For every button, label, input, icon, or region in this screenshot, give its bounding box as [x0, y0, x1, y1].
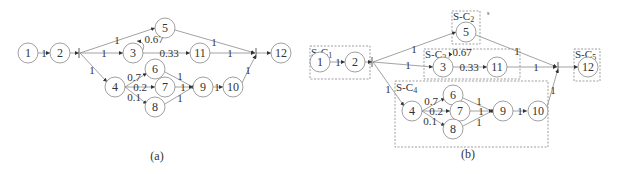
edge-label-9-10: 1 — [214, 81, 220, 93]
node-2: 2 — [50, 43, 70, 63]
svg-text:7: 7 — [162, 80, 168, 94]
svg-text:7: 7 — [457, 104, 463, 118]
svg-text:12: 12 — [275, 46, 287, 60]
diagram-canvas: 1 1 1 1 0.67 0.33 1 1 0.7 0.2 0.1 1 1 1 … — [0, 0, 617, 174]
svg-text:4: 4 — [112, 80, 118, 94]
node-9: 9 — [493, 101, 513, 121]
node-10: 10 — [528, 101, 548, 121]
edge-label-3-11: 0.33 — [459, 61, 479, 73]
svg-text:1: 1 — [317, 55, 323, 69]
svg-text:2: 2 — [57, 46, 63, 60]
edge-label-8-9: 1 — [177, 92, 183, 104]
svg-text:11: 11 — [194, 46, 206, 60]
edge-label-1-2: 1 — [41, 47, 47, 59]
edge-3-5 — [449, 52, 450, 58]
panel-a: 1 1 1 1 0.67 0.33 1 1 0.7 0.2 0.1 1 1 1 … — [18, 18, 291, 163]
node-11: 11 — [487, 57, 507, 77]
node-1: 1 — [18, 43, 38, 63]
edge-label-2-5: 1 — [114, 34, 120, 46]
svg-text:3: 3 — [440, 60, 446, 74]
edge-label-9-10: 1 — [517, 105, 523, 117]
node-12: 12 — [271, 43, 291, 63]
edge-label-2-4: 1 — [385, 83, 391, 95]
edge-label-5-12: 1 — [211, 36, 217, 48]
node-10: 10 — [223, 77, 243, 97]
group-label-sc4: S-C4 — [396, 81, 417, 95]
node-5: 5 — [456, 22, 476, 42]
svg-text:8: 8 — [450, 122, 456, 136]
svg-text:2: 2 — [352, 55, 358, 69]
svg-text:9: 9 — [500, 104, 506, 118]
edge-label-11-12: 1 — [533, 61, 539, 73]
edge-label-10-12: 1 — [245, 64, 251, 76]
svg-text:9: 9 — [200, 80, 206, 94]
caption-a: (a) — [150, 149, 163, 163]
node-6: 6 — [145, 59, 165, 79]
node-3: 3 — [123, 43, 143, 63]
svg-text:10: 10 — [227, 80, 239, 94]
node-3: 3 — [433, 57, 453, 77]
svg-text:10: 10 — [532, 104, 544, 118]
edge-label-2-5: 1 — [411, 43, 417, 55]
node-5: 5 — [155, 18, 175, 38]
node-4: 4 — [105, 77, 125, 97]
node-4: 4 — [402, 101, 422, 121]
svg-text:8: 8 — [152, 100, 158, 114]
edge-label-1-2: 1 — [335, 56, 341, 68]
svg-text:6: 6 — [450, 88, 456, 102]
edge-label-10-12: 1 — [550, 84, 556, 96]
node-12: 12 — [578, 57, 598, 77]
edge-label-4-8: 0.1 — [423, 115, 437, 127]
svg-text:12: 12 — [582, 60, 594, 74]
node-7: 7 — [450, 101, 470, 121]
svg-text:3: 3 — [130, 46, 136, 60]
edge-label-5-12: 1 — [514, 45, 520, 57]
edge-label-2-3: 1 — [101, 47, 107, 59]
panel-b: S-C1 S-C2 S-C3 S-C4 S-C5 s — [310, 10, 600, 161]
edge-label-3-11: 0.33 — [159, 47, 179, 59]
stray-mark: s — [487, 10, 490, 16]
edge-label-11-12: 1 — [227, 47, 233, 59]
node-1: 1 — [310, 52, 330, 72]
edge-label-3-5: 0.67 — [452, 46, 472, 58]
caption-b: (b) — [461, 147, 475, 161]
svg-text:11: 11 — [491, 60, 503, 74]
node-8: 8 — [443, 119, 463, 139]
svg-text:6: 6 — [152, 62, 158, 76]
svg-text:4: 4 — [409, 104, 415, 118]
node-8: 8 — [145, 97, 165, 117]
svg-text:1: 1 — [25, 46, 31, 60]
node-7: 7 — [155, 77, 175, 97]
edge-label-4-8: 0.1 — [127, 91, 141, 103]
node-11: 11 — [190, 43, 210, 63]
edge-label-8-9: 1 — [476, 116, 482, 128]
svg-text:5: 5 — [162, 21, 168, 35]
edge-label-2-4: 1 — [89, 64, 95, 76]
svg-text:5: 5 — [463, 25, 469, 39]
edge-label-2-3: 1 — [405, 59, 411, 71]
node-2: 2 — [345, 52, 365, 72]
node-9: 9 — [193, 77, 213, 97]
